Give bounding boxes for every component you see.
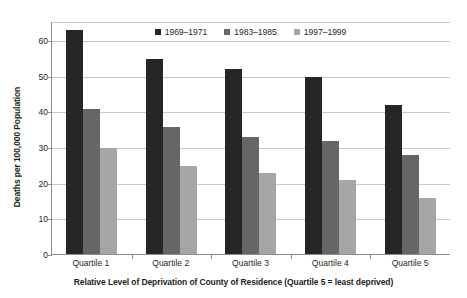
x-axis-line [52,254,450,255]
legend-swatch-icon [224,29,230,35]
y-tick-label: 60 [6,37,48,46]
plot-area: 0102030405060 [51,22,450,255]
x-tick-label: Quartile 2 [131,258,211,268]
chart-legend: 1969–19711983–19851997–1999 [51,28,450,37]
x-tick-label: Quartile 4 [290,258,370,268]
legend-item[interactable]: 1997–1999 [294,28,347,37]
grouped-bar-chart: Deaths per 100,000 Population 0102030405… [0,0,467,298]
y-tick-label: 0 [6,251,48,260]
bar-group [291,23,371,255]
bar-group [211,23,291,255]
legend-item[interactable]: 1983–1985 [224,28,277,37]
bar-group [370,23,450,255]
bar[interactable] [146,59,163,255]
bar-series-layer [52,23,450,255]
bar[interactable] [385,105,402,255]
bar[interactable] [225,69,242,255]
bar[interactable] [163,127,180,255]
bar[interactable] [419,198,436,255]
bar[interactable] [100,148,117,255]
bar-group [52,23,132,255]
bar[interactable] [180,166,197,255]
legend-label: 1969–1971 [165,28,208,37]
y-tick-mark [48,255,52,256]
x-tick-label: Quartile 1 [51,258,131,268]
legend-swatch-icon [294,29,300,35]
bar[interactable] [305,77,322,255]
y-tick-label: 30 [6,144,48,153]
bar[interactable] [339,180,356,255]
y-tick-label: 10 [6,215,48,224]
x-axis-category-labels: Quartile 1Quartile 2Quartile 3Quartile 4… [51,258,450,268]
y-tick-label: 20 [6,179,48,188]
bar[interactable] [402,155,419,255]
bar[interactable] [66,30,83,255]
y-tick-label: 50 [6,72,48,81]
bar-group [132,23,212,255]
legend-label: 1997–1999 [304,28,347,37]
legend-item[interactable]: 1969–1971 [155,28,208,37]
legend-label: 1983–1985 [234,28,277,37]
bar[interactable] [259,173,276,255]
bar[interactable] [242,137,259,255]
y-tick-label: 40 [6,108,48,117]
bar[interactable] [83,109,100,255]
bar[interactable] [322,141,339,255]
x-tick-label: Quartile 5 [370,258,450,268]
x-axis-title: Relative Level of Deprivation of County … [0,277,467,287]
legend-swatch-icon [155,29,161,35]
x-tick-label: Quartile 3 [211,258,291,268]
